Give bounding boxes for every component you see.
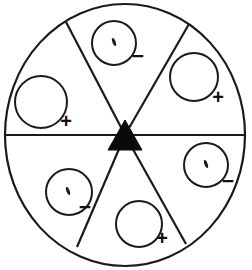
sector-diagram-svg: −+−+−+	[0, 0, 252, 270]
upper-right-plus-sign: +	[212, 86, 224, 108]
lower-right-minus-sign: −	[222, 169, 234, 192]
top-minus-sign: −	[132, 44, 144, 67]
figure-container: −+−+−+	[0, 0, 252, 270]
upper-right-node-circle	[170, 53, 218, 101]
lower-left-minus-sign: −	[79, 195, 91, 218]
bottom-plus-sign: +	[156, 227, 168, 249]
bottom-node-circle	[116, 201, 162, 247]
left-plus-sign: +	[60, 110, 72, 132]
